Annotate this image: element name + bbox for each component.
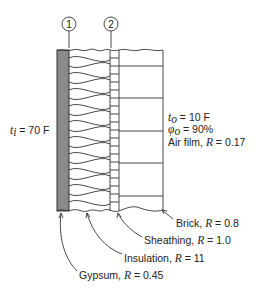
sheathing-label: Sheathing, R = 1.0 [144,234,231,246]
outside-airfilm-label: Air film, R = 0.17 [168,136,246,148]
gypsum-label: Gypsum, R = 0.45 [79,269,164,281]
brick-label: Brick, R = 0.8 [176,217,239,229]
brick-layer [119,50,163,210]
svg-text:1: 1 [66,19,72,30]
insulation-layer [69,50,110,211]
svg-text:2: 2 [108,19,114,30]
insulation-label: Insulation, R = 11 [124,252,205,264]
marker-2: 2 [104,17,118,48]
outside-rh-label: φo = 90% [168,123,213,137]
marker-1: 1 [62,17,76,48]
sheathing-layer [110,50,119,211]
inside-temp-label: ti = 70 F [10,124,49,138]
gypsum-layer [57,50,69,211]
wall-section-diagram: 1 2 ti = 70 F to = 10 F φo = 90% Air fil… [0,0,259,297]
